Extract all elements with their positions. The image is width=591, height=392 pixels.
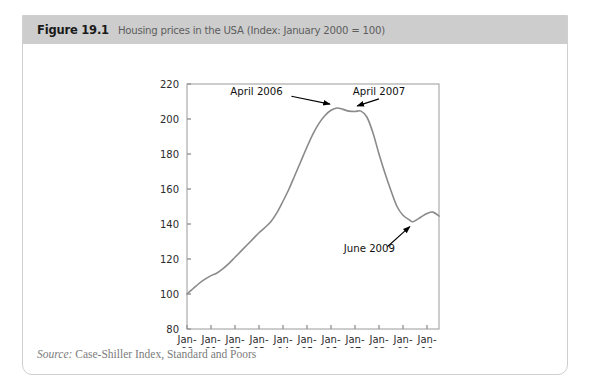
svg-text:Jan-: Jan- [368, 334, 388, 345]
x-axis-tick-labels: Jan-00Jan-01Jan-02Jan-03Jan-04Jan-05Jan-… [176, 334, 436, 348]
svg-text:April 2006: April 2006 [230, 86, 282, 97]
svg-text:Jan-: Jan- [296, 334, 316, 345]
svg-text:10: 10 [421, 346, 434, 348]
figure-header-bar: Figure 19.1 Housing prices in the USA (I… [23, 16, 567, 44]
svg-text:April 2007: April 2007 [353, 86, 405, 97]
chart-plot-area: 80100120140160180200220 Jan-00Jan-01Jan-… [23, 44, 567, 348]
svg-text:160: 160 [160, 184, 179, 195]
svg-text:Jan-: Jan- [272, 334, 292, 345]
svg-text:Jan-: Jan- [248, 334, 268, 345]
svg-text:180: 180 [160, 149, 179, 160]
svg-text:120: 120 [160, 254, 179, 265]
svg-text:80: 80 [166, 324, 179, 335]
svg-text:08: 08 [373, 346, 386, 348]
axis-frame [187, 84, 439, 329]
figure-number: Figure 19.1 [37, 23, 109, 37]
svg-text:04: 04 [277, 346, 290, 348]
svg-text:09: 09 [397, 346, 410, 348]
svg-text:Jan-: Jan- [320, 334, 340, 345]
svg-text:Jan-: Jan- [176, 334, 196, 345]
svg-text:200: 200 [160, 114, 179, 125]
data-series-line [187, 108, 439, 294]
svg-text:Jan-: Jan- [200, 334, 220, 345]
source-label: Source: [37, 348, 72, 360]
svg-text:Jan-: Jan- [416, 334, 436, 345]
svg-text:100: 100 [160, 289, 179, 300]
line-chart-svg: 80100120140160180200220 Jan-00Jan-01Jan-… [23, 44, 569, 348]
chart-annotations: April 2006April 2007June 2009 [230, 86, 409, 255]
x-axis-ticks [187, 325, 427, 329]
svg-text:06: 06 [325, 346, 338, 348]
figure-source: Source: Case-Shiller Index, Standard and… [37, 348, 256, 360]
y-axis-tick-labels: 80100120140160180200220 [160, 79, 179, 335]
svg-text:Jan-: Jan- [392, 334, 412, 345]
svg-text:June 2009: June 2009 [343, 243, 395, 254]
svg-text:140: 140 [160, 219, 179, 230]
svg-text:07: 07 [349, 346, 362, 348]
figure-card: Figure 19.1 Housing prices in the USA (I… [22, 15, 568, 375]
source-text: Case-Shiller Index, Standard and Poors [72, 348, 256, 360]
figure-caption: Housing prices in the USA (Index: Januar… [118, 25, 385, 36]
svg-text:Jan-: Jan- [224, 334, 244, 345]
svg-text:220: 220 [160, 79, 179, 90]
svg-text:Jan-: Jan- [344, 334, 364, 345]
svg-text:05: 05 [301, 346, 314, 348]
